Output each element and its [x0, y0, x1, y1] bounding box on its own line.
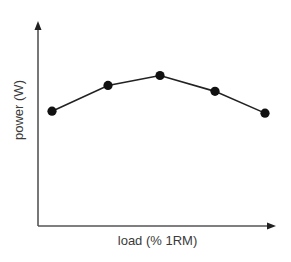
- data-point-marker: [260, 109, 269, 118]
- y-axis: [35, 21, 42, 226]
- data-point-marker: [47, 107, 56, 116]
- data-point-marker: [155, 71, 164, 80]
- y-axis-arrow-icon: [35, 21, 42, 30]
- y-axis-label: power (W): [11, 80, 26, 140]
- x-axis-arrow-icon: [267, 223, 276, 230]
- data-point-marker: [210, 87, 219, 96]
- power-series: [47, 71, 269, 118]
- line-chart: [0, 0, 291, 262]
- data-point-marker: [103, 81, 112, 90]
- x-axis: [38, 223, 276, 230]
- series-line: [52, 76, 265, 114]
- x-axis-label: load (% 1RM): [0, 233, 291, 248]
